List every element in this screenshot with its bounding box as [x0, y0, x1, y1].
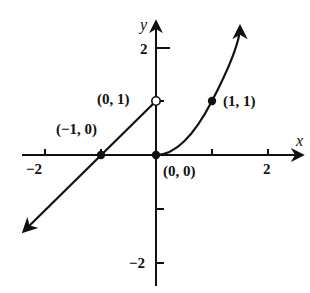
point-0-0: [152, 151, 160, 159]
parabola-curve-right: [156, 27, 240, 155]
piecewise-function-graph: y x −2 2 2 −2 (−1, 0) (0, 1) (0, 0) (1, …: [0, 0, 310, 293]
point-label-neg1-0: (−1, 0): [56, 121, 97, 138]
y-axis-label: y: [138, 16, 148, 34]
x-axis-label: x: [295, 132, 303, 149]
point-label-0-0: (0, 0): [163, 163, 196, 180]
y-tick-label-pos2: 2: [140, 41, 148, 57]
point-label-0-1: (0, 1): [97, 91, 130, 108]
x-tick-label-neg2: −2: [26, 161, 42, 177]
x-tick-label-pos2: 2: [263, 161, 271, 177]
y-tick-label-neg2: −2: [129, 255, 145, 271]
point-1-1: [208, 97, 216, 105]
open-point-0-1: [152, 97, 160, 105]
point-label-1-1: (1, 1): [223, 93, 256, 110]
point-neg1-0: [97, 151, 105, 159]
